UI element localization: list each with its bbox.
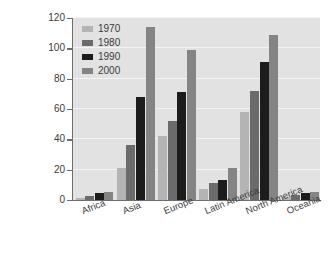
legend-item-1970: 1970 <box>82 23 120 35</box>
bar-group-north-america <box>240 18 278 200</box>
y-tick-100 <box>67 48 72 49</box>
y-tick-20 <box>67 170 72 171</box>
y-tick-label-80: 80 <box>25 73 65 84</box>
bar-north-america-1990 <box>260 62 269 200</box>
y-tick-label-20: 20 <box>25 164 65 175</box>
legend-swatch-2000 <box>82 68 93 74</box>
y-tick-40 <box>67 139 72 140</box>
y-tick-60 <box>67 109 72 110</box>
y-tick-80 <box>67 79 72 80</box>
bar-europe-2000 <box>187 50 196 200</box>
legend-swatch-1970 <box>82 26 93 32</box>
bar-asia-2000 <box>146 27 155 200</box>
y-tick-120 <box>67 18 72 19</box>
y-tick-label-40: 40 <box>25 133 65 144</box>
bar-latin-america-1980 <box>209 183 218 200</box>
bar-asia-1980 <box>126 145 135 200</box>
y-tick-0 <box>67 200 72 201</box>
bar-europe-1970 <box>158 136 167 200</box>
legend-item-1990: 1990 <box>82 51 120 63</box>
bar-group-latin-america <box>199 18 237 200</box>
bar-africa-2000 <box>104 192 113 200</box>
y-axis-line <box>72 18 73 201</box>
bar-europe-1990 <box>177 92 186 200</box>
bar-chart-figure: Millions of tons of paper and paperboard… <box>0 0 335 261</box>
bar-group-asia <box>117 18 155 200</box>
legend-label-1970: 1970 <box>98 23 120 34</box>
bar-latin-america-1970 <box>199 189 208 200</box>
legend-swatch-1990 <box>82 54 93 60</box>
legend-label-1990: 1990 <box>98 51 120 62</box>
bar-group-europe <box>158 18 196 200</box>
legend-label-2000: 2000 <box>98 65 120 76</box>
bar-north-america-2000 <box>269 35 278 200</box>
bar-europe-1980 <box>168 121 177 200</box>
bar-group-oceania <box>282 18 320 200</box>
chart-legend: 1970198019902000 <box>82 23 120 79</box>
y-tick-label-100: 100 <box>25 42 65 53</box>
y-tick-label-120: 120 <box>25 12 65 23</box>
y-tick-label-0: 0 <box>25 194 65 205</box>
legend-item-2000: 2000 <box>82 65 120 77</box>
y-tick-label-60: 60 <box>25 103 65 114</box>
legend-swatch-1980 <box>82 40 93 46</box>
bar-north-america-1980 <box>250 91 259 200</box>
bar-asia-1990 <box>136 97 145 200</box>
legend-label-1980: 1980 <box>98 37 120 48</box>
bar-asia-1970 <box>117 168 126 200</box>
legend-item-1980: 1980 <box>82 37 120 49</box>
bar-africa-1970 <box>76 198 85 200</box>
